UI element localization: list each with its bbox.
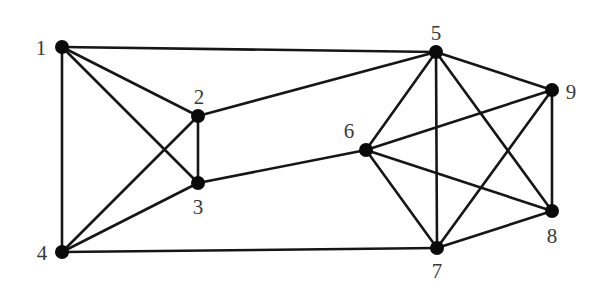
node-2 xyxy=(191,109,205,123)
node-label-5: 5 xyxy=(431,21,442,45)
node-label-9: 9 xyxy=(566,80,577,104)
edge-3-4 xyxy=(62,183,198,252)
edge-6-8 xyxy=(366,150,552,211)
edge-7-9 xyxy=(437,90,552,248)
node-9 xyxy=(545,83,559,97)
node-label-2: 2 xyxy=(194,85,205,109)
node-1 xyxy=(55,40,69,54)
node-label-7: 7 xyxy=(432,259,443,283)
edge-5-7 xyxy=(436,52,437,248)
edges-group xyxy=(62,47,552,252)
node-6 xyxy=(359,143,373,157)
node-label-6: 6 xyxy=(344,119,355,143)
edge-5-8 xyxy=(436,52,552,211)
edge-5-9 xyxy=(436,52,552,90)
edge-6-9 xyxy=(366,90,552,150)
edge-6-7 xyxy=(366,150,437,248)
node-3 xyxy=(191,176,205,190)
edge-7-8 xyxy=(437,211,552,248)
node-4 xyxy=(55,245,69,259)
node-8 xyxy=(545,204,559,218)
edge-2-4 xyxy=(62,116,198,252)
edge-3-6 xyxy=(198,150,366,183)
edge-1-2 xyxy=(62,47,198,116)
node-5 xyxy=(429,45,443,59)
labels-group: 123456789 xyxy=(36,21,577,283)
node-7 xyxy=(430,241,444,255)
graph-diagram: 123456789 xyxy=(0,0,601,288)
edge-2-5 xyxy=(198,52,436,116)
edge-1-3 xyxy=(62,47,198,183)
edge-1-5 xyxy=(62,47,436,52)
node-label-1: 1 xyxy=(36,36,47,60)
nodes-group xyxy=(55,40,559,259)
edge-4-7 xyxy=(62,248,437,252)
node-label-3: 3 xyxy=(193,195,204,219)
node-label-4: 4 xyxy=(37,241,48,265)
node-label-8: 8 xyxy=(547,224,558,248)
